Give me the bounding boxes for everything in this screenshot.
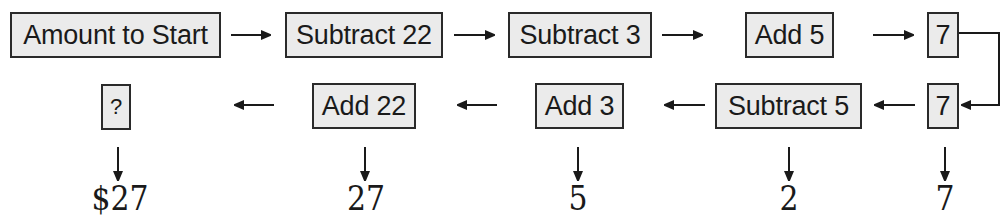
result-value-end: 7 — [934, 178, 956, 218]
result-value-after-add-3: 5 — [567, 178, 589, 218]
step-label: Amount to Start — [23, 20, 208, 51]
step-label: Subtract 3 — [519, 20, 640, 51]
step-subtract-5: Subtract 5 — [715, 83, 862, 129]
step-label: 7 — [936, 20, 951, 51]
result-text: 7 — [935, 178, 954, 218]
step-amount-to-start: Amount to Start — [10, 12, 221, 58]
step-label: Add 22 — [322, 91, 406, 122]
result-value-start: $27 — [88, 178, 153, 218]
step-label: Subtract 5 — [728, 91, 849, 122]
step-label: Add 5 — [755, 20, 825, 51]
result-text: 27 — [347, 178, 385, 218]
result-value-after-add-22: 27 — [344, 178, 387, 218]
step-unknown: ? — [101, 84, 131, 130]
step-subtract-22: Subtract 22 — [285, 12, 443, 58]
step-label: Subtract 22 — [296, 20, 432, 51]
result-text: 2 — [779, 178, 798, 218]
result-value-after-subtract-5: 2 — [778, 178, 800, 218]
result-text: $27 — [91, 178, 148, 218]
wrap-connector — [958, 33, 999, 105]
step-label: ? — [110, 94, 122, 120]
result-text: 5 — [568, 178, 587, 218]
step-result-7-bottom: 7 — [927, 83, 959, 129]
step-add-22: Add 22 — [312, 83, 416, 129]
step-result-7-top: 7 — [927, 12, 959, 58]
step-add-3: Add 3 — [535, 83, 624, 129]
step-label: 7 — [936, 91, 951, 122]
step-label: Add 3 — [545, 91, 615, 122]
step-add-5: Add 5 — [745, 12, 834, 58]
step-subtract-3: Subtract 3 — [508, 12, 652, 58]
